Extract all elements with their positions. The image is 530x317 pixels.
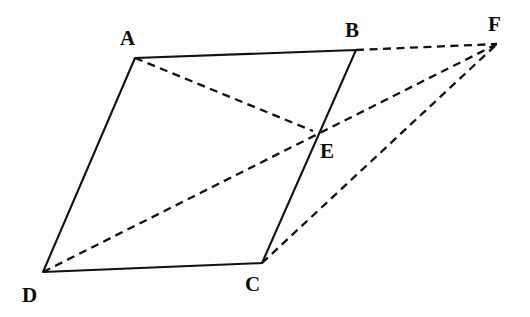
vertex-label-f: F — [488, 14, 501, 35]
vertex-label-a: A — [120, 28, 135, 49]
vertex-label-b: B — [345, 20, 359, 41]
vertex-label-d: D — [22, 285, 37, 306]
vertex-label-e: E — [320, 141, 334, 162]
geometry-canvas — [0, 0, 530, 317]
geometry-figure: A B F E C D — [0, 0, 530, 317]
segment-df — [43, 44, 497, 272]
segment-bf — [356, 44, 497, 50]
vertex-label-c: C — [245, 274, 260, 295]
segment-ae — [135, 58, 313, 131]
segment-cf — [262, 44, 497, 263]
